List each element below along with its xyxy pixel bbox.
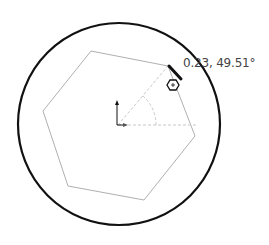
construction-line-radius: [118, 66, 168, 125]
sketch-canvas[interactable]: 0.23, 49.51°: [0, 0, 269, 245]
angle-arc: [143, 96, 156, 125]
origin-icon[interactable]: [115, 100, 128, 127]
sketch-graphics: [0, 0, 269, 245]
dimension-label: 0.23, 49.51°: [183, 56, 255, 70]
polygon-snap-icon: [167, 80, 179, 90]
